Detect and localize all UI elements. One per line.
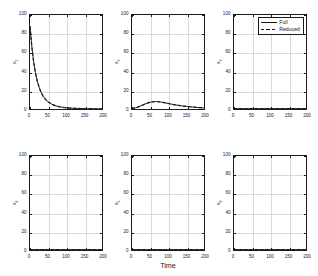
figure-multi-panel-timeseries: 050100150200020406080100x105010015020002… [0, 0, 318, 276]
y-tick-label: 0 [126, 108, 129, 113]
y-tick-label: 80 [123, 31, 128, 36]
plot-panel-5: 050100150200020406080100x5Time [131, 155, 205, 251]
y-tick-label: 80 [21, 172, 26, 177]
y-axis-label-2: x2 [114, 51, 122, 73]
y-tick-label: 100 [223, 12, 231, 17]
x-tick-label: 100 [266, 255, 274, 260]
y-tick-label: 100 [19, 153, 27, 158]
legend-line-sample-dashed [261, 27, 277, 32]
x-tick-label: 150 [285, 114, 293, 119]
plot-panel-2: 050100150200020406080100x2 [131, 14, 205, 110]
x-tick-label: 50 [249, 114, 254, 119]
y-tick-label: 80 [21, 31, 26, 36]
x-tick-label: 50 [147, 255, 152, 260]
y-tick-label: 20 [225, 230, 230, 235]
x-tick-label: 0 [130, 114, 133, 119]
y-tick-label: 20 [21, 89, 26, 94]
y-tick-label: 40 [225, 210, 230, 215]
x-tick-label: 0 [28, 255, 31, 260]
legend-row: Reduced [261, 26, 300, 33]
y-tick-label: 60 [225, 191, 230, 196]
curve-layer-6 [234, 156, 306, 250]
y-tick-label: 80 [123, 172, 128, 177]
y-tick-label: 100 [223, 153, 231, 158]
x-tick-label: 200 [99, 255, 107, 260]
y-tick-label: 0 [24, 249, 27, 254]
x-tick-label: 150 [81, 114, 89, 119]
legend-label: Reduced [279, 27, 300, 32]
curve-layer-4 [30, 156, 102, 250]
x-tick-label: 100 [164, 255, 172, 260]
y-tick-label: 40 [21, 69, 26, 74]
x-tick-label: 200 [99, 114, 107, 119]
legend-line-sample-solid [261, 20, 277, 25]
x-tick-label: 150 [285, 255, 293, 260]
y-tick-label: 100 [19, 12, 27, 17]
plot-panel-1: 050100150200020406080100x1 [29, 14, 103, 110]
y-axis-label-5: x5 [114, 192, 122, 214]
y-axis-label-4: x4 [12, 192, 20, 214]
solid-line-icon [261, 22, 277, 23]
legend-box: FullReduced [258, 17, 304, 35]
x-tick-label: 100 [62, 114, 70, 119]
y-tick-label: 60 [123, 191, 128, 196]
axes-box-5 [131, 155, 205, 251]
axes-box-2 [131, 14, 205, 110]
y-axis-label-3: x3 [216, 51, 224, 73]
x-tick-label: 100 [266, 114, 274, 119]
y-tick-label: 80 [225, 31, 230, 36]
y-tick-label: 0 [228, 108, 231, 113]
y-tick-label: 20 [225, 89, 230, 94]
series-reduced [30, 26, 102, 109]
y-axis-label-1: x1 [12, 51, 20, 73]
legend-label: Full [279, 20, 287, 25]
x-tick-label: 150 [81, 255, 89, 260]
curve-layer-5 [132, 156, 204, 250]
y-tick-label: 60 [123, 50, 128, 55]
x-tick-label: 100 [62, 255, 70, 260]
curve-layer-1 [30, 15, 102, 109]
x-tick-label: 0 [28, 114, 31, 119]
y-tick-label: 20 [123, 89, 128, 94]
x-tick-label: 200 [201, 114, 209, 119]
y-tick-label: 60 [21, 50, 26, 55]
x-tick-label: 50 [147, 114, 152, 119]
x-tick-label: 150 [183, 255, 191, 260]
dashed-line-icon [261, 29, 277, 30]
plot-panel-3: FullReduced050100150200020406080100x3 [233, 14, 307, 110]
series-full [30, 26, 102, 109]
x-tick-label: 0 [232, 255, 235, 260]
axes-box-1 [29, 14, 103, 110]
axes-box-3: FullReduced [233, 14, 307, 110]
x-axis-label: Time [160, 262, 176, 269]
plot-panel-6: 050100150200020406080100x6 [233, 155, 307, 251]
y-tick-label: 100 [121, 12, 129, 17]
y-tick-label: 40 [225, 69, 230, 74]
y-tick-label: 0 [24, 108, 27, 113]
y-tick-label: 60 [21, 191, 26, 196]
plot-panel-4: 050100150200020406080100x4 [29, 155, 103, 251]
y-tick-label: 40 [123, 69, 128, 74]
x-tick-label: 50 [45, 114, 50, 119]
x-tick-label: 150 [183, 114, 191, 119]
y-tick-label: 20 [123, 230, 128, 235]
y-tick-label: 40 [21, 210, 26, 215]
y-tick-label: 80 [225, 172, 230, 177]
x-tick-label: 200 [303, 255, 311, 260]
y-tick-label: 20 [21, 230, 26, 235]
y-tick-label: 100 [121, 153, 129, 158]
axes-box-6 [233, 155, 307, 251]
x-tick-label: 100 [164, 114, 172, 119]
x-tick-label: 200 [201, 255, 209, 260]
curve-layer-2 [132, 15, 204, 109]
y-tick-label: 0 [228, 249, 231, 254]
x-tick-label: 50 [249, 255, 254, 260]
x-tick-label: 200 [303, 114, 311, 119]
y-tick-label: 40 [123, 210, 128, 215]
x-tick-label: 0 [130, 255, 133, 260]
axes-box-4 [29, 155, 103, 251]
x-tick-label: 0 [232, 114, 235, 119]
x-tick-label: 50 [45, 255, 50, 260]
y-axis-label-6: x6 [216, 192, 224, 214]
y-tick-label: 60 [225, 50, 230, 55]
